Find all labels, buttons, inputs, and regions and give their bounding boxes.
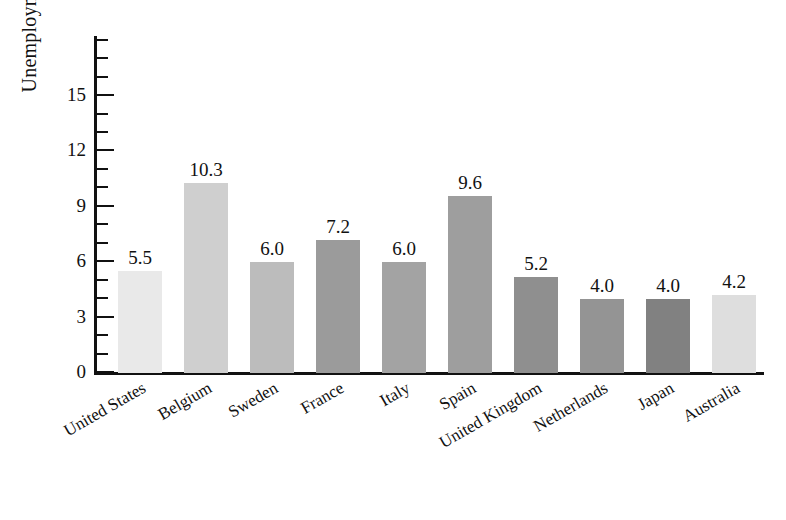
x-axis-category-label-text: Australia [680,379,743,426]
bar[interactable] [316,240,360,373]
x-axis-category-label-text: Japan [634,379,677,414]
bar-value-label: 6.0 [369,239,439,259]
x-axis-category-label-text: Sweden [225,379,281,422]
y-axis-tick-label: 9 [52,196,86,215]
bar-value-label: 7.2 [303,217,373,237]
bar[interactable] [250,262,294,373]
bar[interactable] [448,196,492,373]
y-axis-tick-label: 0 [52,362,86,381]
y-axis-tick-label-wrap: 9 [52,196,86,215]
x-axis-category-label-text: France [298,379,347,418]
bar-value-label: 4.0 [633,276,703,296]
bar[interactable] [118,271,162,373]
bar-group: 9.6 [448,37,492,373]
bar-group: 5.5 [118,37,162,373]
y-axis-tick-label: 6 [52,251,86,270]
bar[interactable] [184,183,228,373]
bar-group: 6.0 [382,37,426,373]
bar-chart: Unemployment rate 03691215 5.510.36.07.2… [0,0,786,520]
bar-group: 4.0 [646,37,690,373]
y-axis-tick-label-wrap: 15 [52,85,86,104]
plot-area: 5.510.36.07.26.09.65.24.04.04.2 [97,36,764,373]
y-axis-title: Unemployment rate [18,0,52,126]
x-axis-category-label-text: Spain [436,379,479,414]
y-axis-tick-label: 12 [52,140,86,159]
y-axis-tick-label-wrap: 12 [52,140,86,159]
y-axis-tick-label: 3 [52,307,86,326]
bar-group: 6.0 [250,37,294,373]
bar[interactable] [712,295,756,373]
bar[interactable] [514,277,558,373]
bar-value-label: 6.0 [237,239,307,259]
bar-group: 4.0 [580,37,624,373]
y-axis-tick-label-wrap: 0 [52,362,86,381]
bar-value-label: 5.2 [501,254,571,274]
y-axis-tick-label: 15 [52,85,86,104]
bar-value-label: 5.5 [105,248,175,268]
bar-value-label: 9.6 [435,173,505,193]
bar-value-label: 4.2 [699,272,769,292]
bar[interactable] [382,262,426,373]
y-axis-tick-label-wrap: 3 [52,307,86,326]
bar[interactable] [580,299,624,373]
bar-group: 4.2 [712,37,756,373]
bar-group: 5.2 [514,37,558,373]
x-axis-category-label-text: Italy [377,379,413,410]
bar-value-label: 10.3 [171,160,241,180]
bar[interactable] [646,299,690,373]
bar-value-label: 4.0 [567,276,637,296]
bar-group: 7.2 [316,37,360,373]
y-axis-tick-label-wrap: 6 [52,251,86,270]
bar-group: 10.3 [184,37,228,373]
